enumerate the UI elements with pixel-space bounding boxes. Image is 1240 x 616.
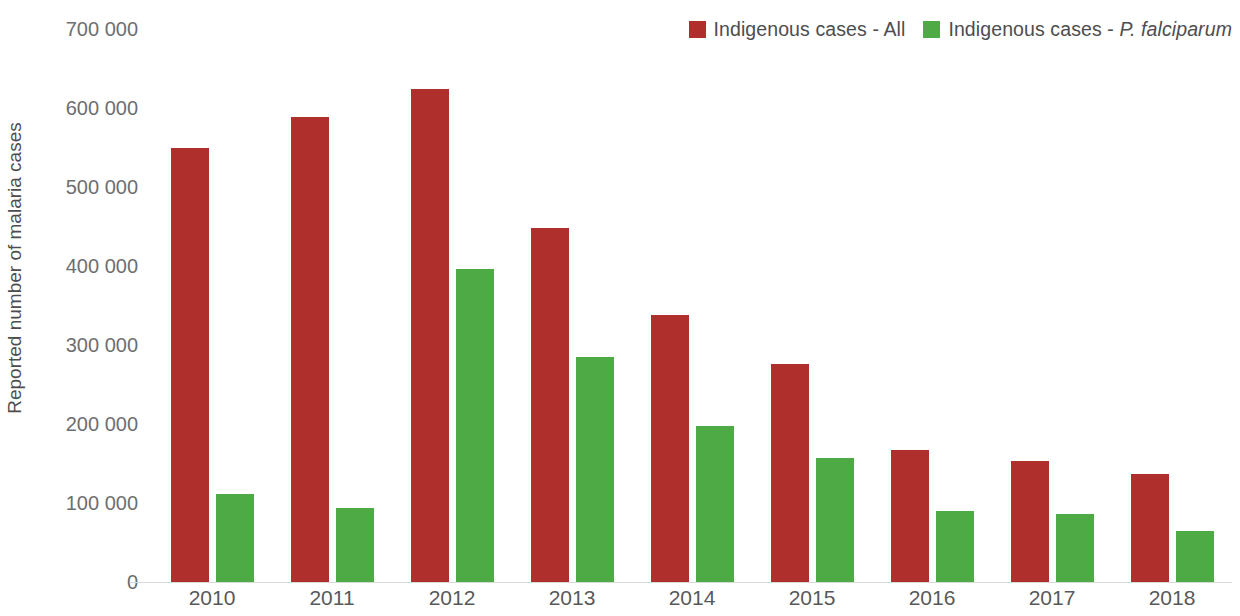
bar-group-2015: [752, 29, 872, 582]
plot-area: 0100 000200 000300 000400 000500 000600 …: [152, 29, 1232, 582]
y-axis-title: Reported number of malaria cases: [0, 0, 30, 616]
y-axis-tick-label: 400 000: [66, 255, 138, 278]
y-axis-tick-label: 0: [127, 571, 138, 594]
bar-all-2015[interactable]: [771, 364, 809, 582]
bar-all-2016[interactable]: [891, 450, 929, 582]
x-axis-label-2016: 2016: [872, 586, 992, 610]
bar-pfalciparum-2011[interactable]: [336, 508, 374, 582]
bar-group-2013: [512, 29, 632, 582]
x-axis-label-2013: 2013: [512, 586, 632, 610]
bar-group-2012: [392, 29, 512, 582]
bar-all-2014[interactable]: [651, 315, 689, 582]
x-axis-label-2011: 2011: [272, 586, 392, 610]
bar-pfalciparum-2015[interactable]: [816, 458, 854, 582]
y-axis-tick-label: 500 000: [66, 176, 138, 199]
bar-all-2018[interactable]: [1131, 474, 1169, 582]
bar-all-2012[interactable]: [411, 89, 449, 582]
y-axis-tick-label: 300 000: [66, 334, 138, 357]
bar-pfalciparum-2014[interactable]: [696, 426, 734, 582]
bar-pfalciparum-2017[interactable]: [1056, 514, 1094, 582]
bar-all-2013[interactable]: [531, 228, 569, 582]
bar-group-2010: [152, 29, 272, 582]
bar-pfalciparum-2012[interactable]: [456, 269, 494, 582]
y-axis-tick-label: 200 000: [66, 413, 138, 436]
x-axis-labels: 201020112012201320142015201620172018: [152, 586, 1232, 610]
x-axis-label-2010: 2010: [152, 586, 272, 610]
bar-group-2016: [872, 29, 992, 582]
bar-pfalciparum-2018[interactable]: [1176, 531, 1214, 582]
x-axis-label-2017: 2017: [992, 586, 1112, 610]
bar-pfalciparum-2010[interactable]: [216, 494, 254, 582]
bar-pfalciparum-2016[interactable]: [936, 511, 974, 582]
x-axis-label-2018: 2018: [1112, 586, 1232, 610]
bar-groups: [152, 29, 1232, 582]
bar-group-2017: [992, 29, 1112, 582]
bar-group-2011: [272, 29, 392, 582]
x-axis-label-2014: 2014: [632, 586, 752, 610]
x-axis-label-2015: 2015: [752, 586, 872, 610]
bar-all-2011[interactable]: [291, 117, 329, 582]
y-axis-title-text: Reported number of malaria cases: [4, 122, 26, 493]
bar-pfalciparum-2013[interactable]: [576, 357, 614, 582]
bar-all-2010[interactable]: [171, 148, 209, 583]
x-axis-label-2012: 2012: [392, 586, 512, 610]
y-axis-tick-label: 100 000: [66, 492, 138, 515]
bar-group-2014: [632, 29, 752, 582]
bar-group-2018: [1112, 29, 1232, 582]
y-axis-tick-label: 600 000: [66, 97, 138, 120]
malaria-cases-bar-chart: Indigenous cases - All Indigenous cases …: [0, 0, 1240, 616]
y-axis-tick-label: 700 000: [66, 18, 138, 41]
bar-all-2017[interactable]: [1011, 461, 1049, 582]
